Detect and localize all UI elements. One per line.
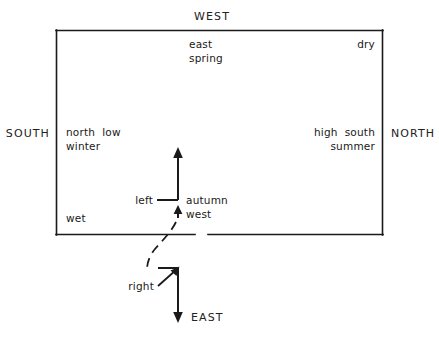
inner-label-east: east — [189, 38, 259, 51]
right-east-arrow — [158, 268, 178, 315]
cardinal-label-west: WEST — [172, 10, 252, 23]
inner-label-north-low: north low — [66, 126, 176, 139]
arrow-label-left: left — [105, 194, 153, 207]
inner-label-winter: winter — [66, 140, 176, 153]
left-autumn-arrow — [157, 155, 178, 200]
right-arrow-head-down — [173, 312, 183, 323]
arrow-label-autumn: autumn — [186, 194, 256, 207]
inner-label-summer: summer — [259, 140, 375, 153]
inner-label-high-south: high south — [259, 126, 375, 139]
arrow-label-west-lower: west — [186, 208, 246, 221]
dashed-connector-curve — [147, 222, 176, 270]
inner-label-spring: spring — [189, 52, 259, 65]
arrow-label-right: right — [104, 280, 154, 293]
diagram-canvas: WEST SOUTH NORTH EAST east spring dry no… — [0, 0, 439, 340]
cardinal-label-north: NORTH — [391, 127, 439, 140]
inner-label-dry: dry — [315, 38, 375, 51]
diagram-vector-graphics — [0, 0, 439, 340]
cardinal-label-east: EAST — [191, 311, 251, 324]
cardinal-label-south: SOUTH — [0, 127, 50, 140]
west-small-arrow-head-up — [174, 205, 183, 214]
inner-label-wet: wet — [66, 212, 116, 225]
